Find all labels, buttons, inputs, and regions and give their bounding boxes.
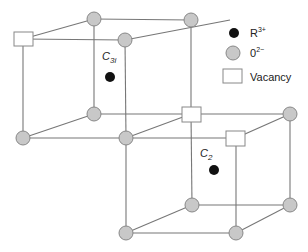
- legend-oxygen-icon: [226, 46, 240, 60]
- vacancy-square: [14, 32, 33, 46]
- crystal-structure-diagram: C3i C2 R3+ 02− Vacancy: [0, 0, 308, 252]
- legend: R3+ 02− Vacancy: [223, 26, 292, 83]
- oxygen-atom: [283, 107, 297, 121]
- legend-cation-label: R3+: [250, 26, 266, 39]
- legend-oxygen-label: 02−: [250, 46, 264, 59]
- vacancy-square: [182, 107, 201, 122]
- oxygen-atom: [185, 198, 199, 212]
- legend-vacancy-label: Vacancy: [250, 71, 292, 83]
- cation-c3i-atom: [105, 72, 115, 82]
- vacancy-square: [226, 131, 245, 146]
- oxygen-atom: [118, 33, 132, 47]
- cation-c2-atom: [209, 165, 219, 175]
- oxygen-atom: [229, 226, 243, 240]
- oxygen-atom: [184, 13, 198, 27]
- oxygen-atom: [87, 107, 101, 121]
- c3i-site-label: C3i: [102, 50, 116, 65]
- legend-vacancy-icon: [223, 69, 242, 83]
- c2-site-label: C2: [200, 147, 213, 162]
- oxygen-atom: [87, 12, 101, 26]
- oxygen-atom: [16, 131, 30, 145]
- legend-cation-icon: [229, 28, 239, 38]
- oxygen-atom: [119, 226, 133, 240]
- oxygen-atom: [283, 198, 297, 212]
- oxygen-atom: [119, 131, 133, 145]
